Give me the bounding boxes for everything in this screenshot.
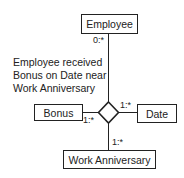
association-description-line-1: Employee received xyxy=(13,56,106,69)
association-description-line-3: Work Anniversary xyxy=(13,82,106,95)
multiplicity-bonus: 1:* xyxy=(83,116,94,125)
association-diamond-icon xyxy=(99,102,119,123)
association-description-line-2: Bonus on Date near xyxy=(13,69,106,82)
multiplicity-date: 1:* xyxy=(120,101,131,110)
multiplicity-work-anniversary: 1:* xyxy=(112,138,123,147)
class-work-anniversary: Work Anniversary xyxy=(63,150,156,169)
class-employee-label: Employee xyxy=(86,18,133,30)
class-date-label: Date xyxy=(146,108,168,120)
association-description: Employee received Bonus on Date near Wor… xyxy=(13,56,106,95)
diagram-canvas: Employee Bonus Date Work Anniversary 0:*… xyxy=(0,0,184,178)
class-bonus: Bonus xyxy=(34,104,83,121)
class-bonus-label: Bonus xyxy=(44,107,74,119)
class-date: Date xyxy=(137,104,177,123)
class-employee: Employee xyxy=(81,14,138,34)
class-work-anniversary-label: Work Anniversary xyxy=(68,154,150,166)
multiplicity-employee: 0:* xyxy=(93,36,104,45)
